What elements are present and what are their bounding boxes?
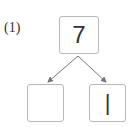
arrow-right — [78, 56, 106, 82]
bottom-right-number-box: | — [89, 84, 126, 122]
top-number: 7 — [72, 21, 85, 49]
arrow-left — [48, 56, 78, 82]
top-number-box: 7 — [59, 16, 99, 54]
bottom-right-number: | — [105, 90, 111, 116]
bottom-left-answer-box[interactable] — [27, 84, 64, 122]
